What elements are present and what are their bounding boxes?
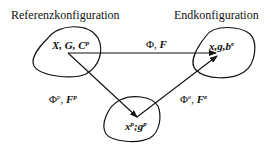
plastic-mapping-label: Φp, Fp [49, 94, 77, 105]
arrow-elastic-mapping [137, 56, 217, 117]
reference-region-blob [33, 27, 101, 77]
deformation-gradient: F [160, 38, 167, 50]
intermediate-node-label: xp;gp [125, 121, 147, 132]
reference-configuration-title: Referenzkonfiguration [11, 9, 120, 21]
intermediate-g-sup: p [143, 120, 147, 128]
total-mapping-label: Φ, F [146, 39, 167, 50]
F-sup: p [73, 93, 77, 101]
final-node-sup: e [231, 40, 234, 48]
final-node-label: x,g,be [209, 41, 234, 52]
F-sup: e [204, 93, 207, 101]
phi-symbol: Φ [146, 38, 154, 50]
phi-symbol: Φ [180, 93, 188, 105]
final-configuration-title: Endkonfiguration [174, 9, 259, 21]
reference-node-label: X, G, Cp [52, 40, 89, 51]
reference-node-symbols: X, G, C [52, 39, 86, 51]
arrow-plastic-mapping [68, 53, 137, 117]
reference-node-sup: p [86, 39, 90, 47]
final-node-symbols: x,g,b [209, 40, 231, 52]
phi-symbol: Φ [49, 93, 57, 105]
deformation-gradient: F [197, 93, 204, 105]
elastic-mapping-label: Φe, Fe [180, 94, 207, 105]
